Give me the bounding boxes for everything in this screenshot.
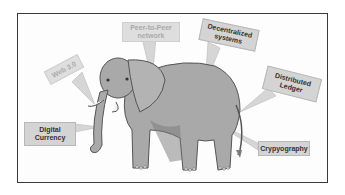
label-cryptography: Crypyography bbox=[258, 141, 310, 156]
label-peer-to-peer: Peer-to-Peer network bbox=[122, 22, 180, 42]
label-digital-currency: Digital Currency bbox=[24, 122, 76, 146]
